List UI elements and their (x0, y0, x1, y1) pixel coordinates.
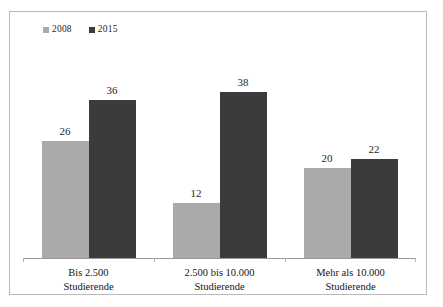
chart-frame: 2008 2015 26 36 12 (9, 11, 427, 295)
bar-slot-2008: 26 (42, 48, 89, 258)
bar-value-label: 36 (107, 85, 118, 96)
bar-value-label: 26 (60, 126, 71, 137)
bar-slot-2008: 12 (173, 48, 220, 258)
x-axis-line (23, 258, 416, 259)
bar-2015[interactable] (220, 92, 267, 258)
chart-legend: 2008 2015 (10, 25, 426, 35)
category-label-2500-bis-10000: 2.500 bis 10.000 Studierende (154, 266, 285, 294)
x-axis-tick (285, 258, 286, 262)
legend-label-2008: 2008 (52, 25, 72, 35)
category-line-1: 2.500 bis 10.000 (154, 266, 285, 280)
x-axis-category-labels: Bis 2.500 Studierende 2.500 bis 10.000 S… (23, 266, 416, 294)
legend-item-2008[interactable]: 2008 (43, 25, 72, 35)
bar-group-2500-bis-10000: 12 38 (154, 48, 285, 258)
category-label-mehr-als-10000: Mehr als 10.000 Studierende (285, 266, 416, 294)
bar-value-label: 12 (191, 188, 202, 199)
bar-slot-2015: 22 (351, 48, 398, 258)
bar-group-mehr-als-10000: 20 22 (285, 48, 416, 258)
x-axis-tick (154, 258, 155, 262)
bar-2008[interactable] (42, 141, 89, 258)
bar-groups: 26 36 12 38 20 (23, 48, 416, 258)
bar-group-bis-2500: 26 36 (23, 48, 154, 258)
bar-slot-2008: 20 (304, 48, 351, 258)
legend-item-2015[interactable]: 2015 (89, 25, 118, 35)
plot-area: 26 36 12 38 20 (23, 48, 416, 258)
bar-slot-2015: 38 (220, 48, 267, 258)
bar-2008[interactable] (304, 168, 351, 258)
bar-value-label: 38 (238, 77, 249, 88)
category-line-1: Mehr als 10.000 (285, 266, 416, 280)
x-axis-tick (415, 258, 416, 262)
legend-swatch-2008 (43, 27, 49, 33)
bar-2015[interactable] (89, 100, 136, 258)
bar-value-label: 22 (369, 144, 380, 155)
category-label-bis-2500: Bis 2.500 Studierende (23, 266, 154, 294)
bar-value-label: 20 (322, 153, 333, 164)
bar-2015[interactable] (351, 159, 398, 258)
legend-label-2015: 2015 (98, 25, 118, 35)
category-line-1: Bis 2.500 (23, 266, 154, 280)
bar-slot-2015: 36 (89, 48, 136, 258)
legend-swatch-2015 (89, 27, 95, 33)
category-line-2: Studierende (23, 280, 154, 294)
bar-2008[interactable] (173, 203, 220, 258)
category-line-2: Studierende (154, 280, 285, 294)
x-axis-tick (23, 258, 24, 262)
category-line-2: Studierende (285, 280, 416, 294)
